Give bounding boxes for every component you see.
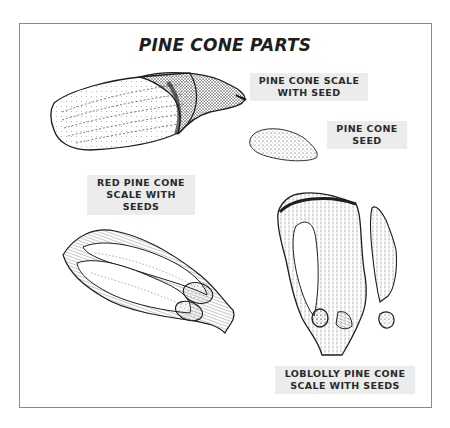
red-pine-cone-scale-illustration [55, 225, 245, 340]
pine-cone-seed-illustration [246, 124, 322, 164]
label-line: SCALE WITH [93, 189, 189, 201]
label-red-pine-cone-scale: RED PINE CONE SCALE WITH SEEDS [87, 175, 195, 215]
diagram-title: PINE CONE PARTS [0, 35, 450, 55]
label-line: PINE CONE [333, 123, 401, 135]
label-line: SEEDS [93, 201, 189, 213]
label-pine-cone-seed: PINE CONE SEED [327, 121, 407, 149]
label-line: PINE CONE SCALE [256, 75, 362, 87]
label-line: LOBLOLLY PINE CONE [281, 368, 409, 380]
label-loblolly-pine-cone-scale: LOBLOLLY PINE CONE SCALE WITH SEEDS [275, 366, 415, 394]
pine-cone-scale-illustration [40, 60, 260, 170]
label-line: SCALE WITH SEEDS [281, 380, 409, 392]
loblolly-pine-cone-scale-illustration [268, 190, 418, 355]
label-pine-cone-scale-with-seed: PINE CONE SCALE WITH SEED [250, 73, 368, 101]
label-line: SEED [333, 135, 401, 147]
label-line: RED PINE CONE [93, 177, 189, 189]
label-line: WITH SEED [256, 87, 362, 99]
